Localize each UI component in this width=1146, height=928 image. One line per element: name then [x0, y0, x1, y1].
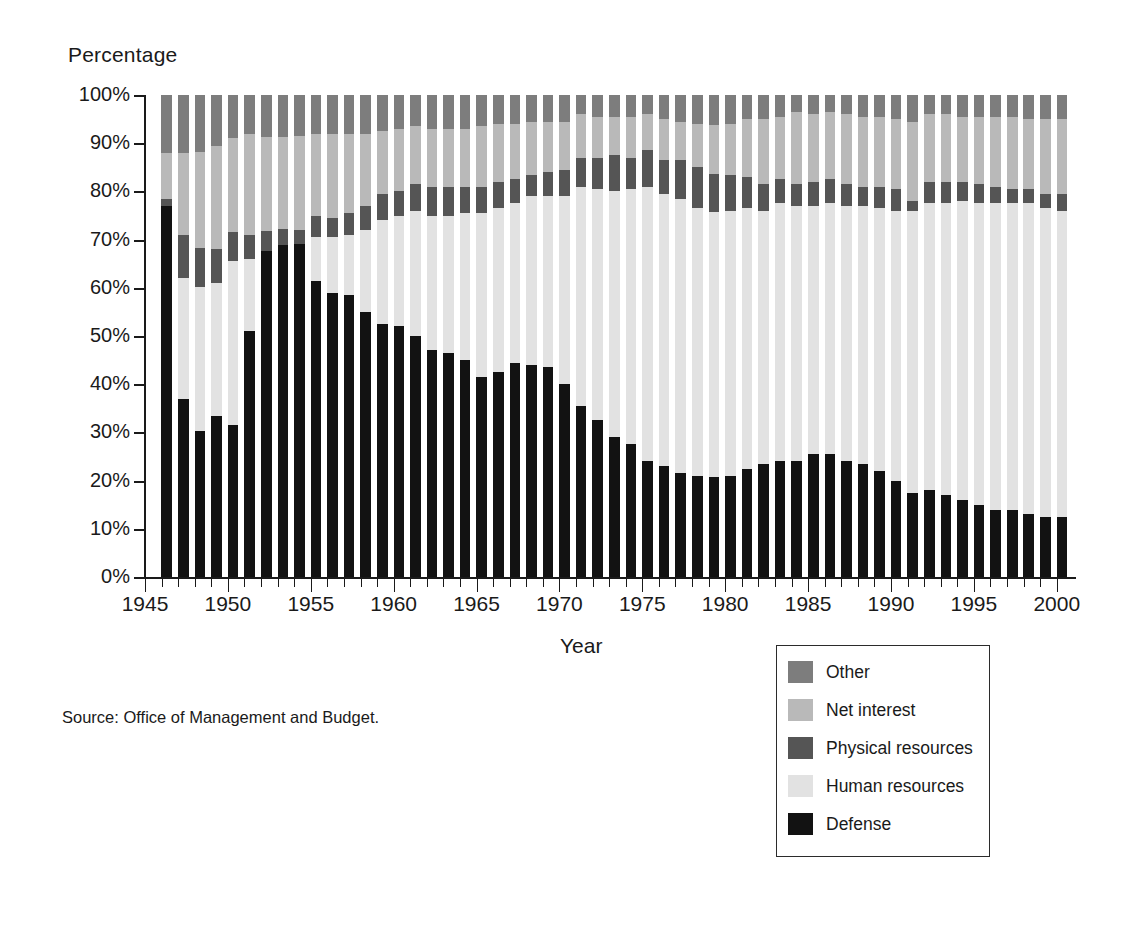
bar-1984[interactable]: [791, 95, 802, 577]
legend-item-net-interest[interactable]: Net interest: [788, 696, 915, 724]
legend-label-net-interest: Net interest: [826, 700, 915, 720]
bar-1985[interactable]: [808, 95, 819, 577]
x-tick-mark-1973: [609, 579, 610, 587]
x-tick-mark-1986: [825, 579, 826, 587]
bar-1968[interactable]: [526, 95, 537, 577]
bar-1982[interactable]: [758, 95, 769, 577]
bar-1986[interactable]: [825, 95, 836, 577]
bar-1954[interactable]: [294, 95, 305, 577]
bar-1959[interactable]: [377, 95, 388, 577]
bar-1951[interactable]: [244, 95, 255, 577]
y-tick-label-80: 80%: [60, 180, 130, 200]
bar-1975[interactable]: [642, 95, 653, 577]
bar-segment-net-interest-1959: [377, 131, 388, 194]
bar-1972[interactable]: [592, 95, 603, 577]
bar-1963[interactable]: [443, 95, 454, 577]
bar-1957[interactable]: [344, 95, 355, 577]
bar-segment-other-1990: [891, 95, 902, 119]
bar-segment-defense-1977: [675, 473, 686, 577]
bar-1961[interactable]: [410, 95, 421, 577]
bar-1979[interactable]: [709, 95, 720, 577]
bar-1947[interactable]: [178, 95, 189, 577]
x-tick-mark-1969: [543, 579, 544, 587]
legend-item-defense[interactable]: Defense: [788, 810, 891, 838]
bar-segment-physical-resources-1988: [858, 187, 869, 206]
x-tick-mark-1993: [941, 579, 942, 587]
bar-segment-other-1952: [261, 95, 272, 137]
bar-1978[interactable]: [692, 95, 703, 577]
x-tick-mark-1981: [742, 579, 743, 587]
y-tick-label-40: 40%: [60, 373, 130, 393]
bar-1948[interactable]: [195, 95, 206, 577]
bar-segment-defense-1991: [907, 493, 918, 577]
bar-segment-other-1975: [642, 95, 653, 114]
bar-segment-human-resources-1964: [460, 213, 471, 360]
bar-1994[interactable]: [957, 95, 968, 577]
bar-1970[interactable]: [559, 95, 570, 577]
bar-2000[interactable]: [1057, 95, 1068, 577]
bar-segment-physical-resources-1977: [675, 160, 686, 199]
bar-1971[interactable]: [576, 95, 587, 577]
bar-1953[interactable]: [278, 95, 289, 577]
y-tick-label-20: 20%: [60, 470, 130, 490]
bar-1990[interactable]: [891, 95, 902, 577]
bar-1955[interactable]: [311, 95, 322, 577]
bar-segment-defense-1988: [858, 464, 869, 577]
bar-segment-other-1961: [410, 95, 421, 126]
bar-1967[interactable]: [510, 95, 521, 577]
bar-1998[interactable]: [1023, 95, 1034, 577]
bar-1981[interactable]: [742, 95, 753, 577]
bar-1987[interactable]: [841, 95, 852, 577]
bar-1962[interactable]: [427, 95, 438, 577]
bar-1977[interactable]: [675, 95, 686, 577]
bar-1949[interactable]: [211, 95, 222, 577]
bar-1969[interactable]: [543, 95, 554, 577]
bar-segment-other-1980: [725, 95, 736, 124]
bar-1952[interactable]: [261, 95, 272, 577]
bar-1946[interactable]: [161, 95, 172, 577]
x-tick-mark-1945: [145, 579, 146, 592]
legend-swatch-net-interest: [788, 699, 813, 721]
x-tick-mark-1985: [808, 579, 809, 592]
legend-item-human-resources[interactable]: Human resources: [788, 772, 964, 800]
bar-1976[interactable]: [659, 95, 670, 577]
bar-1988[interactable]: [858, 95, 869, 577]
bar-segment-physical-resources-1972: [592, 158, 603, 189]
legend-item-other[interactable]: Other: [788, 658, 870, 686]
bar-1997[interactable]: [1007, 95, 1018, 577]
bar-1965[interactable]: [476, 95, 487, 577]
bar-segment-net-interest-1967: [510, 124, 521, 179]
bar-1996[interactable]: [990, 95, 1001, 577]
bar-segment-other-1960: [394, 95, 405, 129]
legend-item-physical-resources[interactable]: Physical resources: [788, 734, 973, 762]
bar-segment-physical-resources-1995: [974, 184, 985, 203]
bar-1956[interactable]: [327, 95, 338, 577]
bar-1974[interactable]: [626, 95, 637, 577]
bar-1993[interactable]: [941, 95, 952, 577]
bar-segment-defense-1985: [808, 454, 819, 577]
bar-segment-defense-1987: [841, 461, 852, 577]
bar-1980[interactable]: [725, 95, 736, 577]
bar-1960[interactable]: [394, 95, 405, 577]
bar-1973[interactable]: [609, 95, 620, 577]
bar-1989[interactable]: [874, 95, 885, 577]
bar-segment-other-1993: [941, 95, 952, 114]
x-tick-mark-1966: [493, 579, 494, 587]
x-tick-mark-1988: [858, 579, 859, 587]
bar-1964[interactable]: [460, 95, 471, 577]
bar-1995[interactable]: [974, 95, 985, 577]
bar-segment-physical-resources-1947: [178, 235, 189, 278]
bar-1999[interactable]: [1040, 95, 1051, 577]
x-tick-mark-1951: [244, 579, 245, 587]
bar-1992[interactable]: [924, 95, 935, 577]
bar-segment-net-interest-1994: [957, 117, 968, 182]
bar-1958[interactable]: [360, 95, 371, 577]
bar-segment-physical-resources-1976: [659, 160, 670, 194]
bar-segment-human-resources-1963: [443, 216, 454, 353]
bar-1950[interactable]: [228, 95, 239, 577]
bar-1991[interactable]: [907, 95, 918, 577]
bar-1966[interactable]: [493, 95, 504, 577]
bar-segment-other-1962: [427, 95, 438, 129]
bar-segment-net-interest-1955: [311, 134, 322, 216]
bar-1983[interactable]: [775, 95, 786, 577]
